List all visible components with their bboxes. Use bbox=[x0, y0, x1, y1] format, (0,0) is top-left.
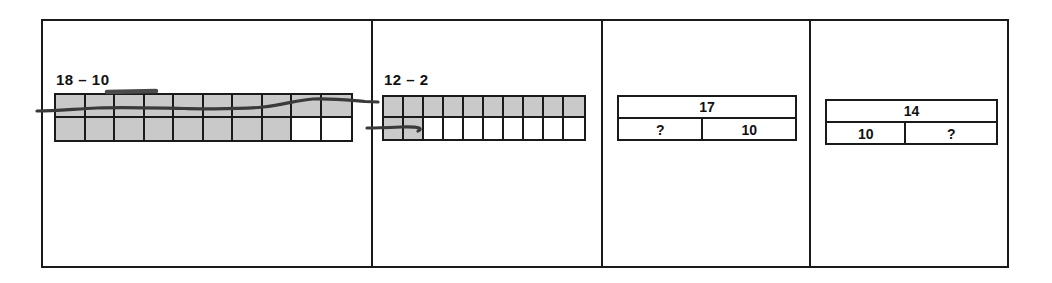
ten-frame-cell bbox=[524, 97, 544, 116]
ten-frame-cell bbox=[544, 118, 564, 139]
bar-model-part-left: ? bbox=[619, 119, 703, 141]
bar-model-part-left: 10 bbox=[827, 123, 906, 145]
bar-model-part-left-value: 10 bbox=[858, 127, 874, 141]
bar-model-part-right-value: ? bbox=[947, 127, 956, 141]
ten-frame-cell bbox=[564, 97, 584, 116]
ten-frame-cell bbox=[56, 95, 86, 116]
bar-model-whole-value: 17 bbox=[699, 100, 715, 114]
ten-frame-cell bbox=[444, 97, 464, 116]
panel-ten-frame-18-minus-10: 18 – 10 bbox=[43, 21, 373, 266]
bar-model-part-right: ? bbox=[906, 123, 996, 145]
ten-frame-cell bbox=[204, 95, 234, 116]
bar-model-whole-row: 14 bbox=[827, 101, 996, 123]
ten-frame-cell bbox=[115, 118, 145, 141]
ten-frame-cell bbox=[263, 95, 293, 116]
bar-model-part-right-value: 10 bbox=[741, 123, 757, 137]
bar-model-parts-row: 10 ? bbox=[827, 123, 996, 145]
ten-frame-cell bbox=[204, 118, 234, 141]
ten-frame-cell bbox=[56, 118, 86, 141]
ten-frame-cell bbox=[292, 95, 322, 116]
ten-frame-cell bbox=[484, 118, 504, 139]
ten-frame-cell bbox=[292, 118, 322, 141]
ten-frame-cell bbox=[484, 97, 504, 116]
ten-frame-grid-12 bbox=[382, 95, 586, 141]
ten-frame-cell bbox=[145, 95, 175, 116]
ten-frame-cell bbox=[544, 97, 564, 116]
ten-frame-cell bbox=[504, 97, 524, 116]
ten-frame-grid-18 bbox=[54, 93, 353, 142]
bar-model-part-right: 10 bbox=[703, 119, 795, 141]
ten-frame-cell bbox=[86, 118, 116, 141]
panel-bar-model-14: 14 10 ? bbox=[811, 21, 1011, 266]
ten-frame-cell bbox=[384, 118, 404, 139]
ten-frame-cell bbox=[384, 97, 404, 116]
worksheet-frame: 18 – 10 bbox=[41, 19, 1009, 268]
panel-bar-model-17: 17 ? 10 bbox=[603, 21, 811, 266]
ten-frame-cell bbox=[464, 118, 484, 139]
ten-frame-cell bbox=[233, 118, 263, 141]
ten-frame-cell bbox=[115, 95, 145, 116]
ten-frame-cell bbox=[322, 95, 352, 116]
bar-model-whole-value: 14 bbox=[904, 104, 920, 118]
ten-frame-bottom-row bbox=[384, 118, 584, 139]
ten-frame-cell bbox=[424, 118, 444, 139]
bar-model-part-left-value: ? bbox=[656, 123, 665, 137]
ten-frame-cell bbox=[524, 118, 544, 139]
bar-model-14: 14 10 ? bbox=[825, 99, 998, 145]
ten-frame-cell bbox=[233, 95, 263, 116]
ten-frame-cell bbox=[174, 118, 204, 141]
ten-frame-cell bbox=[444, 118, 464, 139]
ten-frame-cell bbox=[404, 97, 424, 116]
ten-frame-cell bbox=[504, 118, 524, 139]
ten-frame-bottom-row bbox=[56, 118, 351, 141]
bar-model-whole-row: 17 bbox=[619, 97, 795, 119]
ten-frame-cell bbox=[424, 97, 444, 116]
ten-frame-cell bbox=[464, 97, 484, 116]
panel-ten-frame-12-minus-2: 12 – 2 bbox=[373, 21, 603, 266]
problem-label-18-minus-10: 18 – 10 bbox=[56, 71, 110, 88]
problem-label-12-minus-2: 12 – 2 bbox=[384, 71, 429, 88]
bar-model-parts-row: ? 10 bbox=[619, 119, 795, 141]
ten-frame-cell bbox=[174, 95, 204, 116]
ten-frame-cell bbox=[404, 118, 424, 139]
ten-frame-cell bbox=[322, 118, 352, 141]
bar-model-17: 17 ? 10 bbox=[617, 95, 797, 141]
ten-frame-top-row bbox=[56, 95, 351, 118]
ten-frame-cell bbox=[263, 118, 293, 141]
ten-frame-top-row bbox=[384, 97, 584, 118]
ten-frame-cell bbox=[86, 95, 116, 116]
ten-frame-cell bbox=[145, 118, 175, 141]
ten-frame-cell bbox=[564, 118, 584, 139]
